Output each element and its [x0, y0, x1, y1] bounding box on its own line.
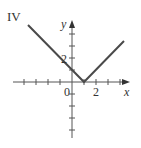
x-axis-label: x [123, 85, 130, 99]
graph: IV y x 0 2 2 [0, 0, 141, 148]
origin-label: 0 [64, 85, 70, 99]
y-tick-label-2: 2 [61, 52, 67, 66]
y-axis-label: y [60, 17, 67, 31]
y-axis-arrow-icon [69, 20, 75, 28]
graph-curve [28, 25, 124, 82]
x-tick-label-2: 2 [93, 85, 99, 99]
panel-label: IV [7, 9, 21, 24]
